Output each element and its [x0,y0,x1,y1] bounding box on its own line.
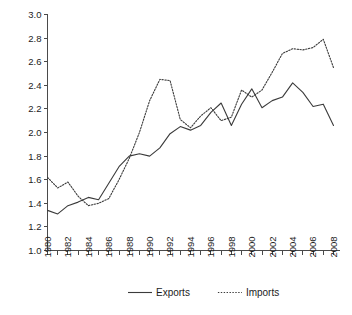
x-tick-label: 2004 [287,236,298,257]
x-axis: 1980198219841986198819901992199419961998… [42,236,340,257]
series-line-imports [48,39,334,205]
y-tick-label: 2.0 [28,127,41,138]
x-tick-label: 2006 [307,236,318,257]
y-tick-label: 2.6 [28,56,41,67]
y-axis: 1.01.21.41.61.82.02.22.42.62.83.0 [28,9,47,256]
line-chart: 1.01.21.41.61.82.02.22.42.62.83.0 198019… [0,0,352,315]
y-tick-label: 3.0 [28,9,41,20]
legend-label-exports: Exports [156,287,190,298]
y-tick-label: 2.8 [28,33,41,44]
data-series-group [48,39,334,214]
x-tick-label: 1994 [185,236,196,257]
x-tick-label: 1984 [83,236,94,257]
legend-label-imports: Imports [246,287,279,298]
y-tick-label: 1.4 [28,198,41,209]
series-line-exports [48,83,334,214]
x-tick-label: 1998 [226,236,237,257]
x-tick-label: 2000 [246,236,257,257]
x-tick-label: 1986 [103,236,114,257]
y-tick-label: 1.2 [28,221,41,232]
y-tick-label: 2.2 [28,103,41,114]
x-tick-label: 2002 [267,236,278,257]
y-tick-label: 1.6 [28,174,41,185]
x-tick-label: 1990 [144,236,155,257]
x-tick-label: 1988 [124,236,135,257]
y-tick-label: 1.8 [28,151,41,162]
x-tick-label: 1996 [205,236,216,257]
x-tick-label: 1982 [62,236,73,257]
x-tick-label: 2008 [328,236,339,257]
x-tick-label: 1992 [164,236,175,257]
y-tick-label: 1.0 [28,245,41,256]
y-tick-label: 2.4 [28,80,41,91]
x-tick-label: 1980 [42,236,53,257]
chart-canvas: 1.01.21.41.61.82.02.22.42.62.83.0 198019… [0,0,352,315]
chart-legend: ExportsImports [128,287,279,298]
